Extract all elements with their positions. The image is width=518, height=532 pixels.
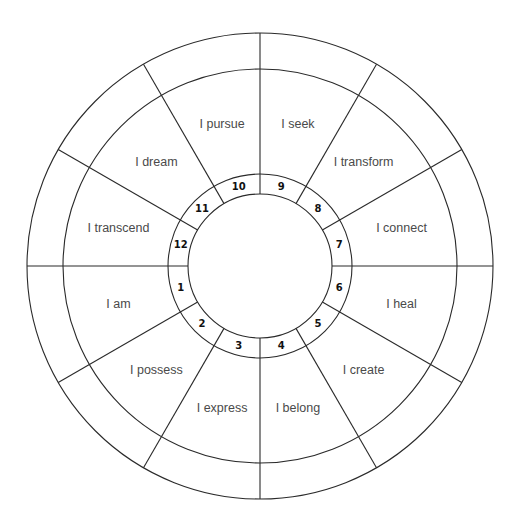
house-10: 10I pursue [199,117,245,192]
house-number: 8 [314,203,321,214]
house-label: I pursue [199,117,244,131]
house-5: 5I create [314,318,384,376]
house-number: 4 [278,340,285,351]
house-number: 6 [336,282,343,293]
house-number: 3 [235,340,242,351]
house-number: 9 [278,181,285,192]
house-number: 2 [199,318,206,329]
spoke-line [296,328,377,467]
house-label: I transcend [88,221,150,235]
house-label: I belong [276,401,321,415]
house-number: 7 [336,239,343,250]
house-6: 6I heal [336,282,417,311]
house-11: 11I dream [135,155,209,213]
house-label: I connect [376,221,427,235]
spoke-line [144,328,225,467]
house-4: 4I belong [276,340,321,415]
house-2: 2I possess [130,318,206,376]
house-label: I transform [334,155,394,169]
house-number: 12 [174,239,188,250]
spoke-line [296,64,377,203]
house-label: I seek [281,117,315,131]
house-label: I possess [130,363,183,377]
house-label: I dream [135,155,177,169]
house-label: I express [197,401,248,415]
house-label: I create [343,363,385,377]
house-8: 8I transform [314,155,393,213]
house-number: 5 [314,318,321,329]
house-number: 10 [232,181,246,192]
spoke-line [144,64,225,203]
house-number: 1 [177,282,184,293]
house-wheel-diagram: 1I am 2I possess 3I express 4I belong 5I… [0,0,518,532]
house-label: I am [106,297,130,311]
house-3: 3I express [197,340,248,415]
inner-ring [188,194,332,338]
house-label: I heal [386,297,417,311]
spokes [27,33,493,499]
house-number: 11 [195,203,209,214]
